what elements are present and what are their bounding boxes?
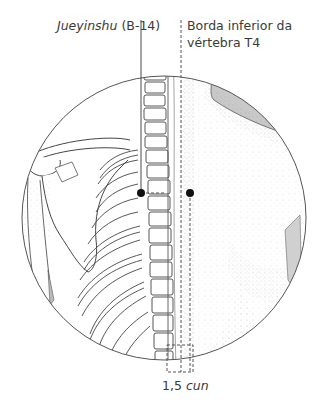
point-name: Jueyinshu <box>57 18 117 33</box>
landmark-line-2: vértebra T4 <box>187 34 292 51</box>
lateral-point-marker <box>186 189 194 197</box>
acupuncture-diagram: Jueyinshu (B-14) Borda inferior da vérte… <box>0 0 329 410</box>
scapula <box>42 160 128 272</box>
measure-value: 1,5 <box>162 378 182 393</box>
landmark-label: Borda inferior da vértebra T4 <box>187 17 292 51</box>
landmark-line-1: Borda inferior da <box>187 17 292 34</box>
measure-unit: cun <box>186 378 209 393</box>
left-shoulder-shade <box>20 50 124 150</box>
point-code: (B-14) <box>121 18 160 33</box>
jueyinshu-point-marker <box>137 189 145 197</box>
point-label: Jueyinshu (B-14) <box>57 17 160 34</box>
shoulder-joint <box>26 155 60 176</box>
spine <box>144 58 173 365</box>
back-illustration <box>0 0 329 410</box>
measure-label: 1,5 cun <box>162 377 209 394</box>
